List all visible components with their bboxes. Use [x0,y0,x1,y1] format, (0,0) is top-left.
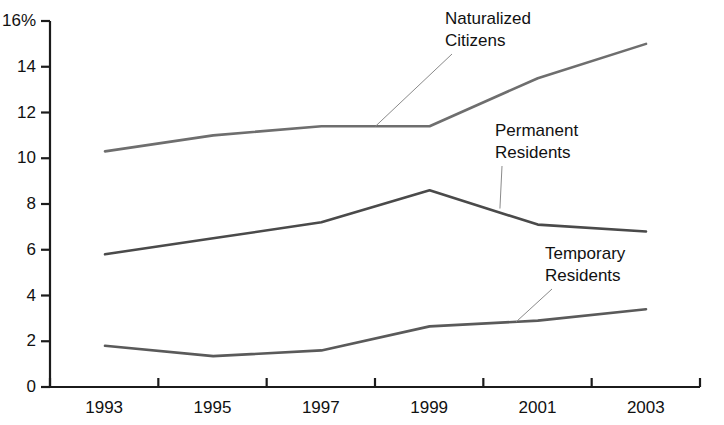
annotation-line-1: Temporary [545,243,625,265]
chart-axes [41,21,700,387]
y-tick-label: 8 [27,195,36,212]
series-line-2 [105,309,646,356]
x-tick-label: 2003 [596,399,696,416]
annotation-temporary-residents: TemporaryResidents [545,243,625,287]
leader-line-naturalized-citizens [376,54,453,126]
annotation-line-1: Naturalized [445,8,531,30]
x-tick-label: 1995 [163,399,263,416]
y-tick-label: 6 [27,241,36,258]
annotation-leader-lines [376,54,553,322]
y-tick-label: 2 [27,332,36,349]
x-tick-label: 1997 [271,399,371,416]
y-tick-label: 14 [17,58,36,75]
x-tick-label: 2001 [488,399,588,416]
chart-series-lines [105,44,646,356]
annotation-line-2: Residents [495,142,578,164]
annotation-permanent-residents: PermanentResidents [495,120,578,164]
y-tick-label: 16% [2,12,36,29]
y-tick-label: 12 [17,104,36,121]
y-tick-label: 0 [27,378,36,395]
line-chart: 0246810121416% 199319951997199920012003 … [0,0,724,425]
leader-line-permanent-residents [500,166,502,209]
annotation-line-2: Residents [545,265,625,287]
annotation-line-2: Citizens [445,30,531,52]
y-tick-label: 10 [17,149,36,166]
chart-canvas [0,0,724,425]
x-tick-label: 1999 [379,399,479,416]
x-tick-label: 1993 [54,399,154,416]
y-tick-label: 4 [27,287,36,304]
annotation-naturalized-citizens: NaturalizedCitizens [445,8,531,52]
leader-line-temporary-residents [516,289,552,322]
annotation-line-1: Permanent [495,120,578,142]
